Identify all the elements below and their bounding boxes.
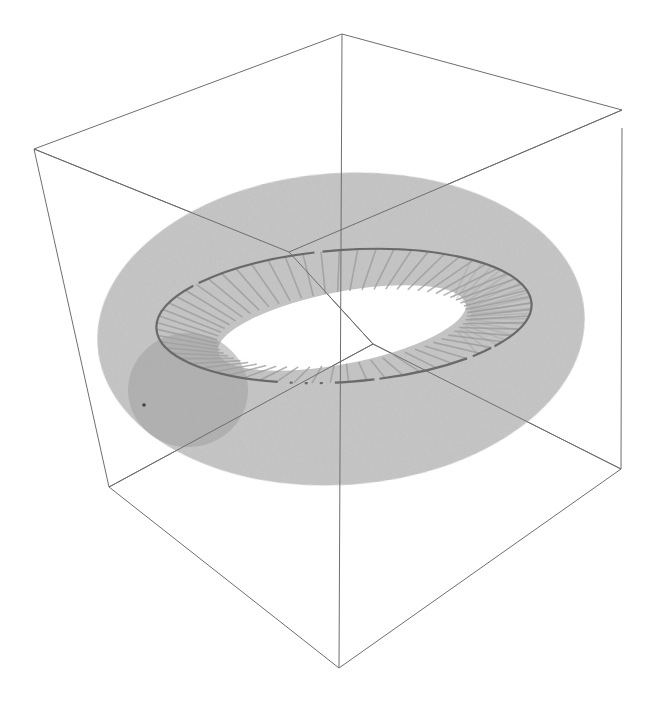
cross-section-disk [128,333,248,447]
figure-canvas [0,0,657,705]
box-edge [342,34,622,110]
box-edge [621,128,622,469]
box-edge [34,149,109,487]
torus-figure [0,0,657,705]
marker-dot [142,403,146,407]
box-edge [339,469,621,668]
radial-line [470,318,527,319]
box-edge [109,487,339,668]
box-edge [34,34,342,149]
